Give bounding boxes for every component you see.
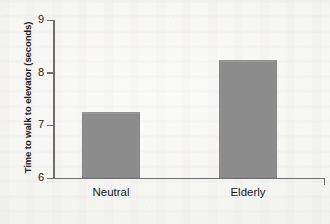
y-tick-mark-6 — [47, 178, 54, 180]
x-axis-end-cap — [324, 178, 326, 185]
x-category-label-neutral: Neutral — [51, 186, 171, 198]
bar-elderly-highlight — [219, 60, 277, 62]
y-axis-line — [53, 20, 55, 179]
y-tick-mark-7 — [47, 125, 54, 127]
y-tick-label-6: 6 — [18, 171, 44, 183]
y-tick-mark-8 — [47, 72, 54, 74]
bar-neutral-highlight — [82, 112, 140, 114]
y-axis-title: Time to walk to elevator (seconds) — [22, 5, 33, 191]
bar-neutral — [82, 112, 140, 178]
y-tick-label-8: 8 — [18, 66, 44, 78]
x-category-label-elderly: Elderly — [188, 186, 308, 198]
bar-chart-figure: Time to walk to elevator (seconds) 9 8 7… — [0, 0, 330, 224]
y-tick-mark-9 — [47, 20, 54, 22]
y-tick-label-7: 7 — [18, 118, 44, 130]
y-tick-label-9: 9 — [18, 13, 44, 25]
bar-elderly — [219, 60, 277, 179]
plot-area: Time to walk to elevator (seconds) 9 8 7… — [0, 0, 330, 224]
